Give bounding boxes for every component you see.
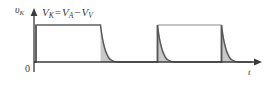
equation-term1-symbol: V xyxy=(62,6,69,18)
voltage-waveform-figure: υK t 0 VK=VA−VV xyxy=(0,0,268,87)
rising-edge-group xyxy=(36,25,222,62)
equation-equals: = xyxy=(54,6,62,18)
decay-fill-group xyxy=(101,25,240,62)
equation-lhs-symbol: V xyxy=(42,6,49,18)
origin-label: 0 xyxy=(25,64,30,74)
equation-minus: − xyxy=(73,6,81,18)
equation-annotation: VK=VA−VV xyxy=(42,7,93,20)
waveform-svg xyxy=(0,0,268,87)
waveform-curve xyxy=(34,25,252,62)
y-axis-arrowhead xyxy=(31,8,38,16)
equation-lhs-subscript: K xyxy=(49,11,54,20)
x-axis-arrowhead xyxy=(254,59,262,66)
equation-term2-subscript: V xyxy=(88,11,93,20)
x-axis-label: t xyxy=(248,68,251,77)
y-axis-subscript: K xyxy=(20,9,25,17)
y-axis-label: υK xyxy=(15,5,24,17)
